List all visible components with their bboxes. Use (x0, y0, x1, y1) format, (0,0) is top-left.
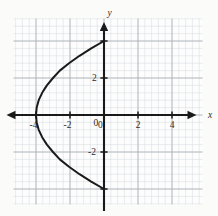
y-tick-label-2: 2 (92, 73, 97, 83)
graph-figure: -4-202420-2xy (0, 0, 218, 216)
y-tick-label--2: -2 (88, 147, 96, 157)
x-tick-label-4: 4 (170, 120, 175, 130)
x-tick-label-0: 0 (98, 120, 103, 130)
x-axis-name-label: x (207, 110, 213, 120)
x-tick-label--2: -2 (64, 120, 72, 130)
coordinate-plane: -4-202420-2xy (0, 0, 218, 216)
plot-background (14, 19, 203, 205)
y-tick-label-0: 0 (94, 118, 99, 128)
y-axis-name-label: y (107, 8, 113, 18)
x-axis-left-arrow (7, 111, 16, 119)
x-tick-label-2: 2 (136, 120, 141, 130)
